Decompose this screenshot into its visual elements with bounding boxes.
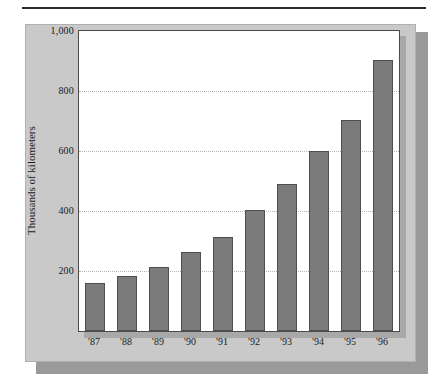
x-tick-label: '91	[207, 336, 237, 348]
y-tick-label: 1,000	[51, 26, 75, 36]
plot-area	[78, 30, 400, 332]
x-tick-label: '87	[79, 336, 109, 348]
x-tick-label: '96	[367, 336, 397, 348]
x-tick-label: '92	[239, 336, 269, 348]
bar-series	[79, 31, 399, 331]
y-tick-label: 600	[58, 146, 74, 156]
x-tick-label: '93	[271, 336, 301, 348]
x-tick-label: '94	[303, 336, 333, 348]
bar-96	[373, 60, 393, 332]
bar-90	[181, 252, 201, 332]
bar-93	[277, 184, 297, 331]
x-tick-label: '88	[111, 336, 141, 348]
y-tick-label: 400	[58, 206, 74, 216]
header-rule	[22, 7, 426, 9]
x-axis-tick-labels: '87'88'89'90'91'92'93'94'95'96	[78, 336, 400, 354]
bar-87	[85, 283, 105, 331]
bar-88	[117, 276, 137, 332]
bar-92	[245, 210, 265, 332]
x-tick-label: '95	[335, 336, 365, 348]
bar-94	[309, 151, 329, 331]
y-tick-label: 200	[58, 266, 74, 276]
bar-91	[213, 237, 233, 332]
figure-container: Thousands of kilometers 2004006008001,00…	[0, 0, 434, 380]
x-tick-label: '89	[143, 336, 173, 348]
y-tick-label: 800	[58, 86, 74, 96]
x-tick-label: '90	[175, 336, 205, 348]
y-axis-tick-labels: 2004006008001,000	[0, 30, 74, 332]
bar-89	[149, 267, 169, 332]
bar-95	[341, 120, 361, 332]
panel-bottom-shadow	[36, 362, 428, 374]
